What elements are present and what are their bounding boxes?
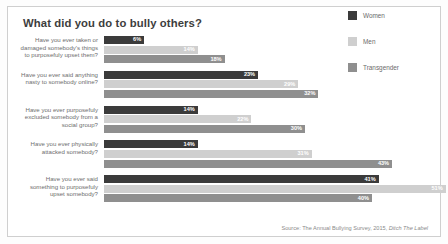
bar-value: 23%: [244, 71, 258, 78]
table-row: 40%: [104, 194, 342, 202]
bar-value: 22%: [237, 116, 251, 123]
bar-group: Have you ever purposefuly excluded someb…: [20, 106, 342, 135]
bar-set: 14% 22% 30%: [104, 106, 342, 135]
bar-set: 6% 14% 18%: [104, 36, 342, 65]
legend-item-transgender[interactable]: Transgender: [348, 63, 434, 72]
bar-value: 30%: [291, 125, 305, 132]
bar-groups: Have you ever taken or damaged somebody'…: [20, 36, 342, 210]
bar-group: Have you ever said something to purposef…: [20, 175, 342, 204]
table-row: 18%: [104, 55, 342, 63]
table-row: 32%: [104, 90, 342, 98]
bar-men[interactable]: [104, 115, 251, 123]
chart-frame: What did you do to bully others? Have yo…: [7, 6, 441, 237]
source-publisher: Ditch The Label: [389, 225, 428, 231]
table-row: 14%: [104, 140, 342, 148]
table-row: 43%: [104, 160, 342, 168]
category-label: Have you ever purposefuly excluded someb…: [20, 106, 104, 129]
category-label: Have you ever taken or damaged somebody'…: [20, 36, 104, 59]
table-row: 30%: [104, 125, 342, 133]
chart-page: What did you do to bully others? Have yo…: [0, 0, 448, 244]
bar-group: Have you ever said anything nasty to som…: [20, 71, 342, 100]
bar-value: 40%: [358, 195, 372, 202]
bar-group: Have you ever physically attacked somebo…: [20, 140, 342, 169]
bar-value: 14%: [184, 46, 198, 53]
legend-label: Transgender: [363, 64, 399, 71]
bar-set: 14% 31% 43%: [104, 140, 342, 169]
legend: Women Men Transgender: [348, 11, 434, 89]
legend-swatch-icon: [348, 11, 357, 20]
bar-value: 31%: [297, 150, 311, 157]
legend-label: Women: [363, 12, 385, 19]
bar-group: Have you ever taken or damaged somebody'…: [20, 36, 342, 65]
table-row: 14%: [104, 106, 342, 114]
category-label: Have you ever said something to purposef…: [20, 175, 104, 198]
table-row: 22%: [104, 115, 342, 123]
bar-transgender[interactable]: [104, 125, 305, 133]
bar-transgender[interactable]: [104, 160, 392, 168]
legend-item-women[interactable]: Women: [348, 11, 434, 20]
table-row: 6%: [104, 36, 342, 44]
legend-swatch-icon: [348, 63, 357, 72]
bar-men[interactable]: [104, 185, 446, 193]
bar-value: 51%: [431, 185, 445, 192]
bar-set: 41% 51% 40%: [104, 175, 342, 204]
table-row: 23%: [104, 71, 342, 79]
bar-value: 18%: [210, 56, 224, 63]
table-row: 41%: [104, 175, 342, 183]
table-row: 14%: [104, 46, 342, 54]
bar-value: 29%: [284, 81, 298, 88]
category-label: Have you ever physically attacked somebo…: [20, 140, 104, 155]
legend-item-men[interactable]: Men: [348, 37, 434, 46]
category-label: Have you ever said anything nasty to som…: [20, 71, 104, 86]
legend-label: Men: [363, 38, 375, 45]
table-row: 51%: [104, 185, 342, 193]
bar-women[interactable]: [104, 71, 258, 79]
legend-swatch-icon: [348, 37, 357, 46]
source-prefix: Source: The Annual Bullying Survey, 2015…: [281, 225, 388, 231]
bar-transgender[interactable]: [104, 55, 225, 63]
source-note: Source: The Annual Bullying Survey, 2015…: [281, 225, 428, 231]
bar-transgender[interactable]: [104, 194, 372, 202]
bar-men[interactable]: [104, 150, 312, 158]
bar-value: 14%: [184, 106, 198, 113]
bar-value: 6%: [133, 36, 144, 43]
bar-men[interactable]: [104, 80, 298, 88]
bar-set: 23% 29% 32%: [104, 71, 342, 100]
table-row: 31%: [104, 150, 342, 158]
bar-value: 32%: [304, 90, 318, 97]
table-row: 29%: [104, 80, 342, 88]
bar-transgender[interactable]: [104, 90, 318, 98]
bar-value: 14%: [184, 141, 198, 148]
bar-value: 43%: [378, 160, 392, 167]
bar-value: 41%: [364, 176, 378, 183]
bar-women[interactable]: [104, 175, 379, 183]
